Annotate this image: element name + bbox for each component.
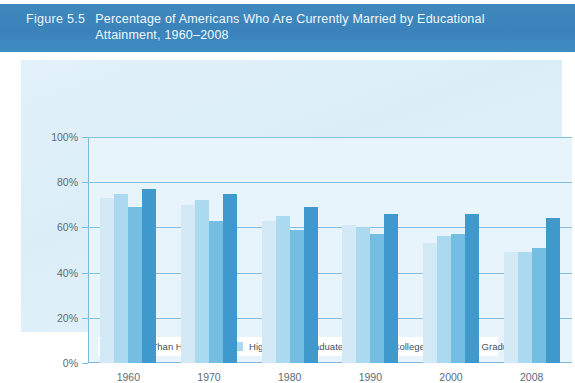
- bar: [142, 189, 156, 363]
- bar: [451, 234, 465, 363]
- bar: [290, 230, 304, 363]
- y-axis-tick: [82, 363, 88, 364]
- bar: [370, 234, 384, 363]
- bar: [384, 214, 398, 363]
- bar-group: 2008: [491, 137, 572, 363]
- bar: [276, 216, 290, 363]
- bar: [181, 205, 195, 363]
- y-axis-tick-label: 20%: [57, 312, 78, 324]
- bar: [128, 207, 142, 363]
- bar: [423, 243, 437, 363]
- bar: [518, 252, 532, 363]
- figure-title: Percentage of Americans Who Are Currentl…: [95, 11, 550, 43]
- chart-panel: 0%20%40%60%80%100% 196019701980199020002…: [21, 60, 562, 332]
- x-axis-tick-label: 1980: [249, 371, 330, 383]
- bar: [356, 227, 370, 363]
- plot-area: 0%20%40%60%80%100% 196019701980199020002…: [88, 137, 572, 363]
- bar: [342, 225, 356, 363]
- bar: [465, 214, 479, 363]
- bar: [100, 198, 114, 363]
- y-axis-tick-label: 100%: [51, 131, 78, 143]
- bar: [262, 221, 276, 363]
- y-axis-tick-label: 60%: [57, 221, 78, 233]
- bar-group: 1990: [330, 137, 411, 363]
- bar: [223, 194, 237, 364]
- x-axis-tick-label: 2008: [491, 371, 572, 383]
- bar: [304, 207, 318, 363]
- bar: [195, 200, 209, 363]
- bar-group: 1980: [249, 137, 330, 363]
- x-axis-tick-label: 1990: [330, 371, 411, 383]
- bar: [546, 218, 560, 363]
- bar: [532, 248, 546, 363]
- bar: [504, 252, 518, 363]
- bar-groups: 196019701980199020002008: [88, 137, 572, 363]
- bar: [114, 194, 128, 364]
- y-axis-tick-label: 40%: [57, 267, 78, 279]
- figure-header-band: Figure 5.5 Percentage of Americans Who A…: [0, 4, 575, 52]
- bar-group: 1970: [169, 137, 250, 363]
- x-axis-tick-label: 1960: [88, 371, 169, 383]
- y-axis-tick-label: 80%: [57, 176, 78, 188]
- x-axis-tick-label: 1970: [169, 371, 250, 383]
- figure-number: Figure 5.5: [26, 11, 85, 27]
- bar: [209, 221, 223, 363]
- figure-header-text: Figure 5.5 Percentage of Americans Who A…: [26, 11, 561, 43]
- bar: [437, 236, 451, 363]
- bar-group: 1960: [88, 137, 169, 363]
- gridline: [88, 363, 572, 364]
- x-axis-tick-label: 2000: [411, 371, 492, 383]
- y-axis-tick-label: 0%: [63, 357, 78, 369]
- bar-group: 2000: [411, 137, 492, 363]
